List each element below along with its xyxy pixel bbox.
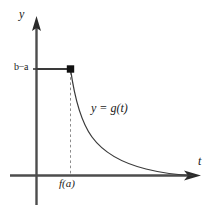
corner-point-marker — [67, 65, 74, 72]
curve-annotation-label: y = g(t) — [91, 102, 128, 114]
figure-canvas: y t b−a y = g(t) f(a) — [0, 0, 220, 223]
y-axis-label: y — [19, 8, 24, 20]
x-axis-label: t — [198, 155, 201, 167]
curve-g-of-t — [71, 69, 194, 176]
x-axis-tick-label: f(a) — [59, 178, 75, 189]
y-axis-tick-label: b−a — [14, 62, 28, 72]
